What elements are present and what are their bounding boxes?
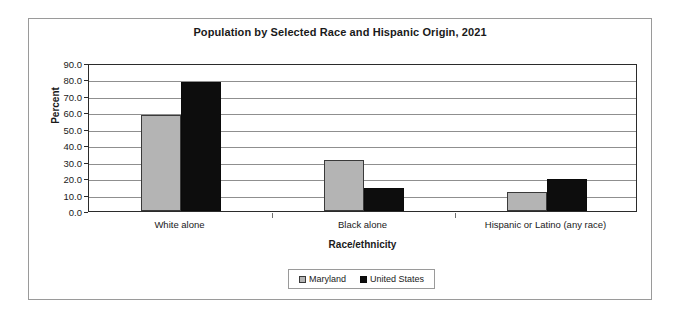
y-axis-tick-mark [84, 80, 88, 81]
chart-title: Population by Selected Race and Hispanic… [28, 26, 652, 38]
y-axis-tick-mark [84, 163, 88, 164]
x-axis-tick-label: White alone [88, 219, 271, 230]
x-axis-tick-mark [455, 213, 456, 218]
y-axis-tick-mark [84, 130, 88, 131]
y-axis-tick-label: 80.0 [36, 75, 82, 86]
y-axis-tick-mark [84, 97, 88, 98]
legend-label: United States [370, 274, 424, 284]
bar-united-states [547, 179, 587, 211]
x-axis-tick-mark [272, 213, 273, 218]
y-axis-ticks: 0.010.020.030.040.050.060.070.080.090.0 [36, 64, 82, 212]
legend-entry: Maryland [299, 274, 346, 284]
bar-maryland [324, 160, 364, 211]
y-axis-tick-label: 90.0 [36, 59, 82, 70]
plot-area [88, 64, 637, 212]
y-axis-tick-label: 0.0 [36, 207, 82, 218]
y-axis-tick-label: 10.0 [36, 190, 82, 201]
y-axis-tick-mark [84, 146, 88, 147]
gridline [89, 81, 636, 82]
x-axis-tick-label: Black alone [271, 219, 454, 230]
chart-legend: MarylandUnited States [288, 269, 435, 289]
bar-maryland [507, 192, 547, 211]
legend-swatch-icon [299, 276, 306, 283]
y-axis-tick-label: 40.0 [36, 141, 82, 152]
x-axis-tick-labels: White aloneBlack aloneHispanic or Latino… [88, 219, 637, 235]
y-axis-tick-mark [84, 113, 88, 114]
y-axis-tick-label: 70.0 [36, 91, 82, 102]
x-axis-label: Race/ethnicity [88, 239, 637, 250]
y-axis-tick-mark [84, 64, 88, 65]
chart-figure: Population by Selected Race and Hispanic… [0, 0, 680, 322]
legend-swatch-icon [360, 276, 367, 283]
y-axis-tick-label: 20.0 [36, 174, 82, 185]
y-axis-tick-label: 60.0 [36, 108, 82, 119]
y-axis-tick-label: 30.0 [36, 157, 82, 168]
bar-maryland [141, 115, 181, 211]
bar-united-states [181, 82, 221, 211]
x-axis-tick-label: Hispanic or Latino (any race) [454, 219, 637, 230]
gridline [89, 98, 636, 99]
legend-entry: United States [360, 274, 424, 284]
bar-united-states [364, 188, 404, 211]
legend-label: Maryland [309, 274, 346, 284]
y-axis-tick-mark [84, 212, 88, 213]
y-axis-tick-mark [84, 196, 88, 197]
y-axis-tick-mark [84, 179, 88, 180]
y-axis-tick-label: 50.0 [36, 124, 82, 135]
